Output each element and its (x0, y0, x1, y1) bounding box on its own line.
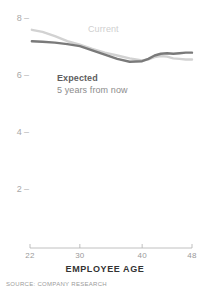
x-tick-label-22: 22 (20, 251, 40, 260)
source-note: SOURCE: COMPANY RESEARCH (6, 281, 107, 287)
y-tick-label-2: 2 (8, 184, 22, 194)
series-line-expected (32, 41, 192, 62)
y-tick-label-6: 6 (8, 70, 22, 80)
x-tick-label-48: 48 (182, 251, 202, 260)
y-tick-mark-6: – (24, 70, 29, 80)
y-tick-label-4: 4 (8, 127, 22, 137)
x-axis (30, 244, 192, 248)
series-line-current (32, 30, 192, 61)
y-tick-label-8: 8 (8, 13, 22, 23)
series-label-current: Current (88, 24, 119, 34)
y-tick-mark-4: – (24, 127, 29, 137)
chart-plot-area (0, 0, 210, 294)
x-tick-label-40: 40 (132, 251, 152, 260)
x-tick-label-30: 30 (70, 251, 90, 260)
series-label-expected: Expected (57, 73, 98, 83)
x-axis-title: EMPLOYEE AGE (0, 264, 210, 274)
y-tick-mark-2: – (24, 184, 29, 194)
line-chart: 8–6–4–2– 22304048 Current Expected 5 yea… (0, 0, 210, 294)
y-tick-mark-8: – (24, 13, 29, 23)
series-sublabel-expected: 5 years from now (57, 85, 128, 95)
x-axis-ticks (30, 244, 192, 248)
